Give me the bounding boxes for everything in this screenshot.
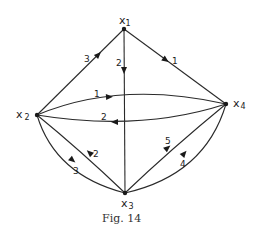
edge-x1-x4	[124, 29, 226, 104]
arrow-icon	[121, 67, 127, 74]
node-label-x3: x3	[121, 197, 134, 211]
edge-x2-x3	[37, 115, 125, 193]
node-x3	[123, 191, 127, 195]
edge-weight-x2-x3: 3	[73, 166, 79, 176]
edge-x1-x3	[124, 29, 125, 193]
edge-weight-x2-x4: 1	[94, 89, 100, 99]
edge-weight-x3-x4-inner: 5	[165, 136, 171, 146]
edge-weight-x3-x2: 2	[93, 149, 99, 159]
node-x2	[35, 113, 39, 117]
node-label-x1: x1	[119, 14, 131, 28]
node-x4	[224, 102, 228, 106]
edge-x2-x1	[37, 29, 124, 115]
edge-weight-x3-x4-outer: 4	[180, 159, 186, 169]
edge-weight-x1-x4: 1	[172, 56, 178, 66]
directed-graph-figure: 3 2 1 1 2 2 3 5 4 x1 x2 x3 x4 Fig. 14	[0, 0, 258, 229]
edge-x3-x4-inner	[125, 104, 226, 193]
arrow-icon	[180, 149, 189, 158]
edge-weight-x1-x3: 2	[116, 58, 122, 68]
edge-x3-x4-outer	[125, 104, 226, 193]
figure-caption: Fig. 14	[102, 212, 141, 225]
arrow-icon	[106, 94, 113, 100]
edge-weight-x2-x1: 3	[84, 54, 90, 64]
arrow-icon	[111, 119, 118, 125]
edge-weight-x4-x2: 2	[101, 112, 107, 122]
node-label-x2: x2	[16, 108, 30, 122]
edge-x4-x2	[37, 104, 226, 121]
arrow-icon	[68, 156, 77, 165]
node-label-x4: x4	[233, 97, 246, 111]
edge-x3-x2	[37, 115, 125, 193]
